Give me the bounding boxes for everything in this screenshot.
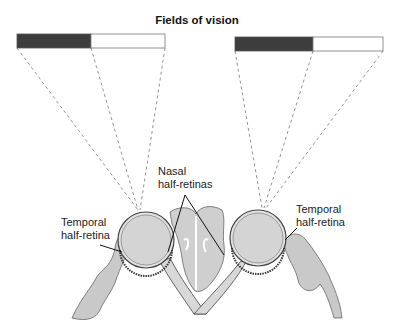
nasal-label-line2: half-retinas [158,178,212,191]
left-temporal-label-line1: Temporal [61,216,110,229]
left-temporal-label-line2: half-retina [61,229,110,242]
right-eye [230,210,286,274]
left-eye [118,212,174,276]
right-temporal-label-line2: half-retina [296,216,345,229]
nasal-label-line1: Nasal [158,165,212,178]
right-visual-field-bar [235,37,383,51]
nasal-half-retinas-label: Nasal half-retinas [158,165,212,191]
right-temporal-label-line1: Temporal [296,203,345,216]
right-temporal-half-retina-label: Temporal half-retina [296,203,345,229]
left-temporal-half-retina-label: Temporal half-retina [61,216,110,242]
right-cortex [285,234,342,318]
left-visual-field-bar [17,34,165,48]
